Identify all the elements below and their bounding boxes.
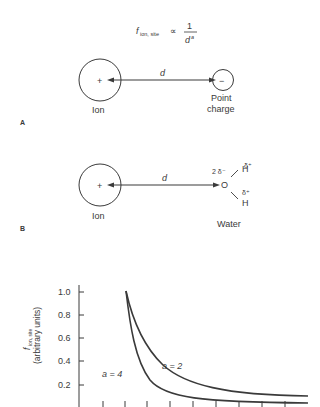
distance-label: d: [162, 173, 168, 183]
charge-label: charge: [207, 104, 235, 114]
annotation-a4: a = 4: [102, 369, 122, 379]
oxygen-charge: 2 δ⁻: [212, 168, 226, 175]
chart: 1.0 0.8 0.6 0.4 0.2 (arbitrary units) f …: [22, 285, 308, 407]
ion-sign: +: [97, 181, 102, 191]
formula-exponent: a: [191, 34, 194, 40]
oxygen-atom: O: [221, 180, 228, 190]
ion-label: Ion: [92, 105, 105, 115]
ylabel-sub: ion, site: [27, 329, 33, 346]
arrowhead-right-icon: [213, 183, 220, 188]
formula-numerator: 1: [187, 21, 192, 31]
arrowhead-left-icon: [107, 78, 114, 83]
panel-b: + d O 2 δ⁻ δ⁺ H δ⁺ H Ion Water B: [20, 162, 252, 232]
panel-a: + d − Ion Point charge A: [20, 59, 235, 126]
ylabel-units: (arbitrary units): [32, 307, 42, 364]
ytick-label: 0.6: [58, 333, 71, 343]
bond-lower: [231, 192, 238, 199]
ytick-label: 0.2: [58, 380, 71, 390]
hydrogen-lower: H: [242, 198, 249, 208]
distance-label: d: [160, 68, 166, 78]
annotation-a2: a = 2: [162, 361, 182, 371]
water-label: Water: [217, 219, 241, 229]
formula: f ion, site ∝ 1 d a: [136, 21, 197, 45]
figure-canvas: f ion, site ∝ 1 d a + d − Ion Point char…: [0, 0, 320, 407]
panel-a-label: A: [20, 119, 25, 126]
bond-upper: [231, 170, 238, 177]
hydrogen-lower-charge: δ⁺: [242, 189, 250, 196]
panel-b-label: B: [20, 225, 25, 232]
formula-proportional: ∝: [170, 26, 176, 36]
curve-a2: [126, 291, 308, 396]
y-ticks: 1.0 0.8 0.6 0.4 0.2: [58, 287, 84, 390]
arrowhead-left-icon: [107, 183, 114, 188]
charge-sign: −: [219, 76, 224, 86]
ion-sign: +: [97, 76, 102, 86]
ytick-label: 0.4: [58, 356, 71, 366]
hydrogen-upper: H: [242, 164, 249, 174]
ytick-label: 0.8: [58, 310, 71, 320]
curve-a4: [126, 291, 308, 403]
y-axis-label: (arbitrary units) f ion, site: [22, 307, 42, 364]
ytick-label: 1.0: [58, 287, 71, 297]
formula-subscript: ion, site: [140, 31, 159, 37]
ion-label: Ion: [92, 211, 105, 221]
point-label: Point: [211, 93, 232, 103]
